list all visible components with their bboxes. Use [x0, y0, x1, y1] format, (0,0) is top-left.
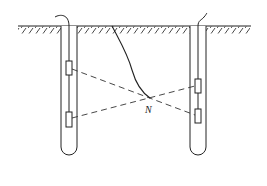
right-sensor-upper — [195, 79, 201, 93]
point-n-label: N — [144, 104, 153, 115]
right-sensor-lower — [195, 109, 201, 123]
left-sensor-lower — [66, 112, 72, 127]
left-sensor-upper — [66, 61, 72, 75]
ground-surface — [18, 26, 251, 34]
borehole-diagram: N — [0, 0, 267, 186]
left-borehole — [55, 15, 77, 155]
ray-paths — [72, 69, 195, 118]
right-cable — [198, 13, 207, 26]
fracture-curve — [112, 26, 150, 98]
right-borehole — [190, 13, 207, 155]
left-cable — [55, 15, 69, 26]
ray-lower-left-to-upper-right — [72, 86, 195, 118]
